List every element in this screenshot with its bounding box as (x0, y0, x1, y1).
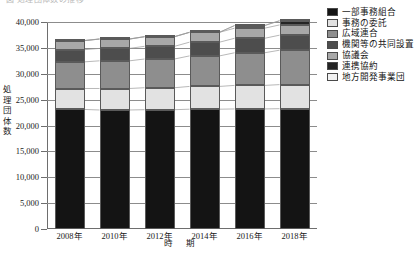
bar-segment[interactable] (145, 110, 175, 229)
y-axis-tick-label: 25,000 (16, 96, 39, 105)
bar-segment[interactable] (190, 32, 220, 42)
y-axis-tick-label: 10,000 (16, 173, 39, 182)
bar-stack[interactable] (280, 21, 310, 229)
bar-segment[interactable] (280, 85, 310, 109)
bar-segment[interactable] (100, 39, 130, 48)
legend-item[interactable]: 協議会 (327, 50, 419, 61)
bar-segment[interactable] (190, 56, 220, 87)
legend-swatch-icon (327, 62, 338, 70)
bar-segment[interactable] (145, 35, 175, 37)
connector-line (85, 48, 100, 49)
legend-swatch-icon (327, 41, 338, 49)
legend-swatch-icon (327, 52, 338, 60)
connector-line (265, 25, 280, 28)
bar-segment[interactable] (235, 26, 265, 29)
bar-stack[interactable] (235, 26, 265, 230)
legend: 一部事務組合事務の委託広域連合機関等の共同設置協議会連携協約地方開発事業団 (327, 7, 419, 83)
bar-segment[interactable] (145, 88, 175, 110)
bar-segment[interactable] (145, 46, 175, 59)
bar-segment[interactable] (280, 50, 310, 84)
bar-segment[interactable] (280, 109, 310, 229)
legend-item[interactable]: 事務の委託 (327, 18, 419, 29)
bar-segment[interactable] (280, 25, 310, 35)
y-axis-tick-label: 5,000 (20, 199, 39, 208)
bar-segment[interactable] (280, 19, 310, 21)
bar-segment[interactable] (280, 35, 310, 50)
legend-item[interactable]: 地方開発事業団 (327, 72, 419, 83)
legend-item-label: 機関等の共同設置 (342, 40, 414, 49)
bar-segment[interactable] (55, 109, 85, 229)
connector-line (175, 86, 190, 87)
legend-item-label: 連携協約 (342, 62, 378, 71)
legend-item[interactable]: 機関等の共同設置 (327, 39, 419, 50)
legend-swatch-icon (327, 19, 338, 27)
connector-line (130, 46, 145, 48)
y-axis-tick-label: 0 (35, 225, 39, 234)
connector-line (85, 61, 100, 62)
connector-line (265, 21, 280, 26)
bar-segment[interactable] (55, 89, 85, 110)
bar-segment[interactable] (190, 30, 220, 32)
bar-segment[interactable] (190, 42, 220, 56)
x-axis-title: 時 期 (47, 236, 317, 248)
legend-swatch-icon (327, 73, 338, 81)
y-axis-tick-label: 30,000 (16, 70, 39, 79)
y-axis-title: 処理団体数 (2, 84, 13, 137)
legend-swatch-icon (327, 8, 338, 16)
bar-segment[interactable] (235, 53, 265, 86)
bar-segment[interactable] (190, 86, 220, 109)
connector-line (265, 50, 280, 53)
legend-item-label: 事務の委託 (342, 19, 387, 28)
bar-segment[interactable] (55, 50, 85, 62)
bar-segment[interactable] (145, 37, 175, 47)
clipped-caption: 図 処理団体数の推移 (6, 0, 306, 4)
connector-line (85, 109, 100, 110)
y-axis-tick (41, 229, 47, 230)
bar-segment[interactable] (100, 110, 130, 229)
bar-segment[interactable] (100, 37, 130, 39)
connector-line (175, 56, 190, 59)
connector-line (265, 85, 280, 86)
connector-line (220, 38, 235, 42)
bar-segment[interactable] (100, 89, 130, 110)
bar-segment[interactable] (100, 48, 130, 60)
bar-segment[interactable] (280, 21, 310, 25)
connector-line (265, 35, 280, 38)
bar-segment[interactable] (145, 59, 175, 88)
connector-line (130, 88, 145, 89)
bar-segment[interactable] (235, 28, 265, 38)
bar-segment[interactable] (235, 109, 265, 229)
legend-item[interactable]: 一部事務組合 (327, 7, 419, 18)
legend-item[interactable]: 広域連合 (327, 29, 419, 40)
legend-item-label: 協議会 (342, 51, 369, 60)
legend-item-label: 広域連合 (342, 29, 378, 38)
figure-stacked-bar-chart: 図 処理団体数の推移 処理団体数 05,00010,00015,00020,00… (0, 0, 419, 262)
bar-stack[interactable] (55, 40, 85, 229)
connector-line (130, 37, 145, 39)
bar-segment[interactable] (190, 109, 220, 229)
legend-item-label: 地方開発事業団 (342, 73, 405, 82)
connector-line (220, 85, 235, 86)
y-axis-tick-label: 15,000 (16, 147, 39, 156)
bar-stack[interactable] (145, 37, 175, 229)
connector-line (130, 59, 145, 61)
legend-swatch-icon (327, 30, 338, 38)
bar-segment[interactable] (100, 61, 130, 89)
connector-line (175, 32, 190, 36)
connector-line (175, 42, 190, 46)
bar-segment[interactable] (55, 41, 85, 50)
bar-stack[interactable] (100, 39, 130, 229)
bar-segment[interactable] (55, 62, 85, 89)
y-axis-tick-label: 35,000 (16, 44, 39, 53)
legend-item[interactable]: 連携協約 (327, 61, 419, 72)
bar-stack[interactable] (190, 32, 220, 229)
legend-item-label: 一部事務組合 (342, 8, 396, 17)
bar-segment[interactable] (235, 85, 265, 109)
y-axis-tick-label: 20,000 (16, 122, 39, 131)
segment-connector-lines (47, 22, 317, 229)
connector-line (85, 39, 100, 41)
bar-segment[interactable] (235, 24, 265, 26)
bar-segment[interactable] (55, 39, 85, 41)
plot-area: 05,00010,00015,00020,00025,00030,00035,0… (47, 22, 317, 229)
bar-segment[interactable] (235, 38, 265, 52)
